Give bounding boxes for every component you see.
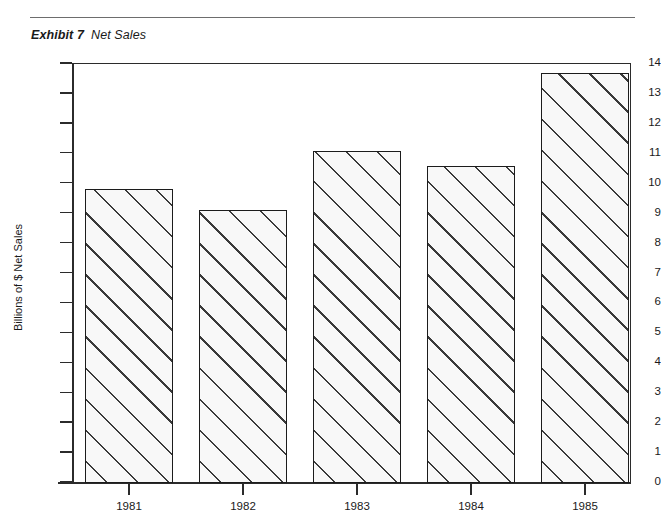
y-axis-tick bbox=[60, 182, 72, 183]
bar-1984 bbox=[427, 166, 515, 483]
y-axis-tick bbox=[60, 212, 72, 213]
x-axis-tick bbox=[128, 483, 129, 495]
y-axis-tick-label: 14 bbox=[613, 57, 661, 69]
y-axis-tick bbox=[60, 362, 72, 363]
y-axis-tick bbox=[60, 392, 72, 393]
x-axis-tick-label: 1983 bbox=[317, 500, 397, 512]
x-axis-tick bbox=[584, 483, 585, 495]
y-axis-tick bbox=[60, 272, 72, 273]
x-axis-tick bbox=[470, 483, 471, 495]
x-axis-tick bbox=[242, 483, 243, 495]
bar-1981 bbox=[85, 189, 173, 483]
bar-1985 bbox=[541, 73, 629, 483]
bar-1982 bbox=[199, 210, 287, 483]
y-axis-tick bbox=[60, 122, 72, 123]
y-axis-tick bbox=[60, 152, 72, 153]
x-axis-tick-label: 1985 bbox=[545, 500, 625, 512]
y-axis-tick bbox=[60, 62, 72, 63]
y-axis-line bbox=[72, 63, 74, 483]
x-axis-tick-label: 1981 bbox=[89, 500, 169, 512]
y-axis: Billions of $ Net Sales bbox=[0, 0, 58, 532]
y-axis-title: Billions of $ Net Sales bbox=[13, 198, 24, 358]
y-axis-tick bbox=[60, 451, 72, 452]
y-axis-tick bbox=[60, 302, 72, 303]
y-axis-tick bbox=[60, 481, 72, 482]
bar-chart: Billions of $ Net Sales 1413121110987654… bbox=[0, 0, 661, 532]
y-axis-tick bbox=[60, 92, 72, 93]
x-axis-tick-label: 1982 bbox=[203, 500, 283, 512]
plot-top-border bbox=[72, 63, 631, 64]
x-axis-tick-label: 1984 bbox=[431, 500, 511, 512]
y-axis-tick bbox=[60, 421, 72, 422]
x-axis-tick bbox=[356, 483, 357, 495]
bar-1983 bbox=[313, 151, 401, 483]
y-axis-tick bbox=[60, 242, 72, 243]
y-axis-tick bbox=[60, 332, 72, 333]
